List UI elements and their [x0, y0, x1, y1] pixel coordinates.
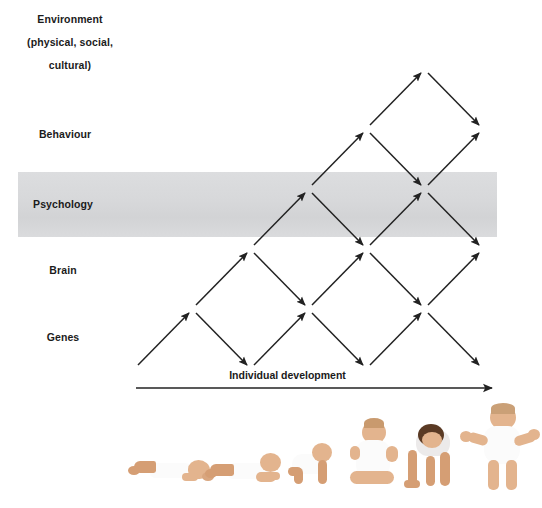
arrow-lattice: [0, 0, 517, 400]
baby-development-photo-strip: [120, 404, 517, 500]
baby-stage-2-lifting-head: [204, 450, 292, 484]
baby-stage-6-standing: [456, 404, 542, 492]
individual-development-label: Individual development: [0, 369, 517, 381]
figure-footer: [0, 494, 517, 508]
baby-stage-4-sitting: [336, 420, 410, 488]
